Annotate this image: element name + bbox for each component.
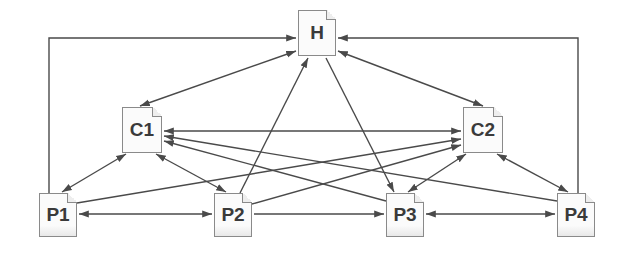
edge-p1-h [49,38,296,193]
node-label: P2 [221,204,244,226]
node-label: C2 [471,119,495,141]
node-p1: P1 [39,193,77,237]
node-h: H [298,10,336,56]
edge-c2-p3 [408,154,466,192]
page-fold-icon [242,193,252,203]
edge-c1-h [140,51,296,106]
node-label: C1 [130,119,154,141]
edge-p3-c1 [164,141,386,201]
page-fold-icon [585,193,595,203]
node-label: P1 [46,204,69,226]
node-c1: C1 [122,107,162,153]
edge-c2-p4 [497,154,568,192]
edge-p2-c2 [252,145,461,204]
node-label: P4 [564,204,587,226]
node-p3: P3 [386,193,424,237]
page-fold-icon [414,193,424,203]
node-label: H [310,22,324,44]
page-fold-icon [493,107,503,117]
edge-c1-p2 [156,154,226,192]
edge-c1-p1 [62,154,126,192]
node-label: P3 [393,204,416,226]
edge-p2-h [240,58,308,193]
page-fold-icon [67,193,77,203]
page-fold-icon [326,10,336,20]
node-p4: P4 [557,193,595,237]
edge-c2-h [338,51,483,106]
page-fold-icon [152,107,162,117]
node-p2: P2 [214,193,252,237]
node-c2: C2 [463,107,503,153]
